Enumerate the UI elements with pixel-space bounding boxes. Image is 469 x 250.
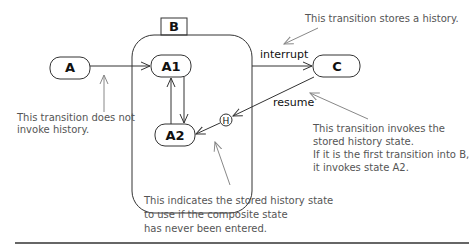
note-arrow-stores-history [284,28,318,44]
state-a1-label: A1 [161,59,180,74]
state-b-body [132,35,252,213]
svg-text:If it is the first transition: If it is the first transition into B, [313,149,469,160]
history-label: H [223,116,230,126]
note-stores-history: This transition stores a history. [304,13,459,24]
history-pseudostate: H [220,114,232,126]
state-b-label: B [169,19,179,34]
svg-text:it invokes state A2.: it invokes state A2. [313,162,409,173]
state-a-label: A [65,60,75,75]
transition-history-default [196,123,220,134]
state-c-label: C [332,59,342,74]
state-a2: A2 [155,124,195,146]
state-a: A [50,57,90,79]
svg-text:This transition invokes the: This transition invokes the [312,123,445,134]
note-no-history: This transition does not invoke history. [16,112,135,135]
svg-text:This indicates the stored hist: This indicates the stored history state [143,195,333,206]
state-diagram: B A A1 A2 C H interrupt resume This tran… [0,0,469,250]
interrupt-label: interrupt [260,48,309,61]
svg-text:has never been entered.: has never been entered. [144,223,267,234]
svg-text:This transition does not: This transition does not [16,112,135,123]
note-default-history: This indicates the stored history state … [143,195,333,234]
note-arrow-default-history [215,142,230,185]
state-c: C [313,55,360,77]
svg-text:to use if the composite state: to use if the composite state [144,209,288,220]
note-invokes-history: This transition invokes the stored histo… [312,123,469,173]
state-a2-label: A2 [165,128,184,143]
svg-text:stored history state.: stored history state. [313,136,414,147]
svg-text:This transition stores a histo: This transition stores a history. [304,13,459,24]
state-a1: A1 [151,55,191,77]
resume-label: resume [273,96,314,109]
svg-text:invoke history.: invoke history. [17,124,89,135]
note-arrow-invokes-history [310,93,368,119]
